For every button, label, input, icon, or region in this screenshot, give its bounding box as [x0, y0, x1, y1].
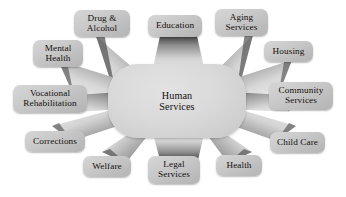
node-label-mental-health: Mental Health: [42, 44, 75, 64]
node-legal-services[interactable]: Legal Services: [148, 156, 200, 184]
node-child-care[interactable]: Child Care: [270, 132, 325, 153]
node-aging-services[interactable]: Aging Services: [215, 9, 268, 36]
hub-label: Human Services: [156, 90, 197, 112]
node-label-welfare: Welfare: [89, 162, 125, 172]
node-label-community-services: Community Services: [276, 86, 327, 106]
node-label-housing: Housing: [270, 47, 308, 57]
node-label-drug-alcohol: Drug & Alcohol: [84, 14, 120, 34]
node-label-child-care: Child Care: [274, 138, 321, 148]
hub-node-human-services[interactable]: Human Services: [108, 64, 246, 138]
node-label-health: Health: [223, 161, 254, 171]
node-label-vocational-rehabilitation: Vocational Rehabilitation: [20, 89, 79, 109]
node-mental-health[interactable]: Mental Health: [33, 40, 83, 67]
node-corrections[interactable]: Corrections: [25, 131, 85, 152]
node-health[interactable]: Health: [216, 155, 262, 176]
node-label-education: Education: [153, 21, 197, 31]
node-welfare[interactable]: Welfare: [83, 156, 131, 177]
node-label-corrections: Corrections: [30, 137, 80, 147]
node-education[interactable]: Education: [148, 15, 202, 37]
node-vocational-rehabilitation[interactable]: Vocational Rehabilitation: [13, 85, 87, 113]
human-services-diagram: Human Services Drug & Alcohol Education …: [0, 0, 346, 197]
node-drug-alcohol[interactable]: Drug & Alcohol: [74, 10, 130, 37]
node-label-legal-services: Legal Services: [155, 160, 193, 180]
node-housing[interactable]: Housing: [264, 41, 313, 62]
node-label-aging-services: Aging Services: [223, 13, 261, 33]
node-community-services[interactable]: Community Services: [269, 82, 333, 110]
